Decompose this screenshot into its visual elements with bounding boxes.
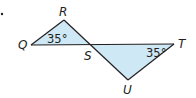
- vertex-label-q: Q: [18, 38, 27, 52]
- vertex-label-s: S: [84, 49, 92, 63]
- bullet-marker: [1, 13, 3, 15]
- geometry-figure: R Q S T U 35° 35°: [0, 0, 196, 98]
- vertex-label-u: U: [123, 83, 132, 97]
- angle-label-q: 35°: [47, 32, 67, 46]
- vertex-label-r: R: [59, 5, 67, 19]
- vertex-label-t: T: [178, 37, 187, 51]
- angle-label-t: 35°: [146, 46, 166, 60]
